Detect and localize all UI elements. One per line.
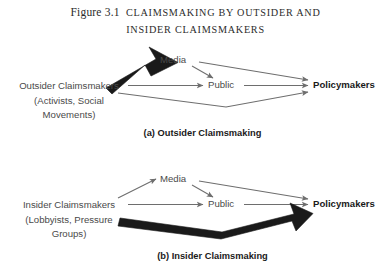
figure-number: Figure 3.1 [70, 6, 119, 18]
figure-title-text-1: Claimsmaking by Outsider and [126, 7, 321, 18]
figure-title-line-1: Figure 3.1 Claimsmaking by Outsider and [0, 3, 391, 20]
panel-a-source-label: Outsider Claimsmakers (Activists, Social… [8, 79, 130, 123]
panel-b-node-media: Media [160, 173, 186, 186]
edge-b-media-to-policymakers [199, 181, 308, 199]
panel-a-node-media: Media [160, 54, 186, 67]
edge-b-media-to-public [192, 185, 213, 197]
panel-a-source-line-2: (Activists, Social [8, 94, 130, 109]
panel-a-source-line-1: Outsider Claimsmakers [8, 79, 130, 94]
panel-a-source-line-3: Movements) [8, 108, 130, 123]
panel-b-source-label: Insider Claimsmakers (Lobbyists, Pressur… [8, 198, 130, 242]
figure-root: Figure 3.1 Claimsmaking by Outsider and … [0, 0, 391, 274]
panel-b-node-public: Public [208, 198, 234, 211]
figure-title: Figure 3.1 Claimsmaking by Outsider and … [0, 3, 391, 37]
edge-a-outsider-to-policymakers [118, 92, 308, 107]
figure-title-text-2: Insider Claimsmakers [126, 24, 265, 35]
panel-a-node-policymakers: Policymakers [313, 79, 375, 92]
panel-a-node-public: Public [208, 79, 234, 92]
edge-a-media-to-policymakers [199, 62, 308, 80]
panel-b-caption: (b) Insider Claimsmaking [105, 251, 320, 261]
edge-b-insider-to-media [118, 179, 156, 198]
panel-a-caption: (a) Outsider Claimsmaking [95, 128, 310, 138]
panel-b-source-line-2: (Lobbyists, Pressure [8, 213, 130, 228]
panel-b-source-line-3: Groups) [8, 227, 130, 242]
panel-b-source-line-1: Insider Claimsmakers [8, 198, 130, 213]
panel-b-node-policymakers: Policymakers [313, 198, 375, 211]
figure-title-line-2: Insider Claimsmakers [0, 20, 391, 37]
edge-a-media-to-public [192, 66, 213, 78]
